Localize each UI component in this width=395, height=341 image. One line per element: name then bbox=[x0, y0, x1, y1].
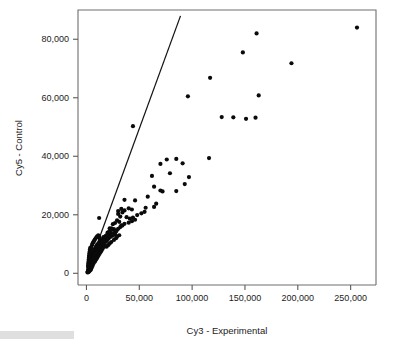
data-point bbox=[152, 205, 156, 209]
data-point bbox=[146, 195, 150, 199]
x-tick-label: 50,000 bbox=[126, 293, 154, 303]
data-point bbox=[289, 61, 293, 65]
data-point bbox=[114, 236, 118, 240]
data-point bbox=[122, 198, 126, 202]
y-tick-label: 80,000 bbox=[41, 34, 69, 44]
data-point bbox=[131, 124, 135, 128]
data-point bbox=[231, 115, 235, 119]
y-axis-title: Cy5 - Control bbox=[13, 120, 24, 176]
data-point bbox=[92, 260, 96, 264]
data-point bbox=[244, 117, 248, 121]
data-point bbox=[165, 157, 169, 161]
data-point bbox=[220, 115, 224, 119]
data-point bbox=[111, 222, 115, 226]
x-tick-label: 100,000 bbox=[176, 293, 209, 303]
data-point bbox=[253, 116, 257, 120]
data-point bbox=[187, 175, 191, 179]
data-point bbox=[120, 224, 124, 228]
data-point bbox=[133, 218, 137, 222]
data-point bbox=[174, 157, 178, 161]
data-point bbox=[130, 207, 134, 211]
data-point bbox=[186, 94, 190, 98]
data-point bbox=[120, 210, 124, 214]
data-point bbox=[116, 209, 120, 213]
y-tick-label: 60,000 bbox=[41, 93, 69, 103]
data-point bbox=[150, 174, 154, 178]
data-point bbox=[109, 226, 113, 230]
data-point bbox=[174, 189, 178, 193]
plot-frame bbox=[78, 10, 376, 285]
data-point bbox=[144, 206, 148, 210]
scatter-plot-canvas: 020,00040,00060,00080,000 050,000100,000… bbox=[0, 0, 395, 341]
data-point-group bbox=[85, 25, 359, 274]
y-tick-label: 20,000 bbox=[41, 210, 69, 220]
y-tick-label: 40,000 bbox=[41, 151, 69, 161]
data-point bbox=[133, 198, 137, 202]
x-axis-title: Cy3 - Experimental bbox=[187, 325, 268, 336]
data-point bbox=[117, 233, 121, 237]
data-point bbox=[152, 185, 156, 189]
data-point bbox=[257, 93, 261, 97]
data-point bbox=[117, 220, 121, 224]
data-point bbox=[241, 50, 245, 54]
reference-trend-line bbox=[86, 16, 180, 273]
x-tick-label: 200,000 bbox=[282, 293, 315, 303]
data-point bbox=[208, 76, 212, 80]
data-point bbox=[355, 25, 359, 29]
data-point bbox=[183, 182, 187, 186]
data-point bbox=[160, 189, 164, 193]
x-tick-label: 150,000 bbox=[229, 293, 262, 303]
data-point bbox=[158, 162, 162, 166]
y-axis-ticks: 020,00040,00060,00080,000 bbox=[41, 34, 78, 278]
data-point bbox=[142, 210, 146, 214]
data-point bbox=[168, 171, 172, 175]
data-point bbox=[118, 214, 122, 218]
data-point bbox=[86, 270, 90, 274]
data-point bbox=[97, 216, 101, 220]
data-point bbox=[181, 161, 185, 165]
x-axis-ticks: 050,000100,000150,000200,000250,000 bbox=[84, 285, 367, 303]
scan-artifact bbox=[0, 331, 74, 339]
scatter-plot-figure: 020,00040,00060,00080,000 050,000100,000… bbox=[0, 0, 395, 341]
y-tick-label: 0 bbox=[64, 268, 69, 278]
data-point bbox=[88, 246, 92, 250]
data-point bbox=[135, 213, 139, 217]
reference-line bbox=[86, 16, 180, 273]
data-point bbox=[207, 156, 211, 160]
x-tick-label: 250,000 bbox=[334, 293, 367, 303]
x-tick-label: 0 bbox=[84, 293, 89, 303]
data-point bbox=[254, 31, 258, 35]
